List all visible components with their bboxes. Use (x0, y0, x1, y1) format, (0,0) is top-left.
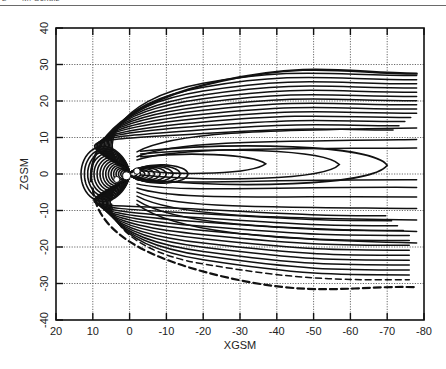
x-tick-label: -50 (306, 325, 322, 337)
x-tick-label: -10 (158, 325, 174, 337)
y-tick-label: 20 (38, 95, 50, 107)
y-tick-label: 10 (38, 131, 50, 143)
x-tick-label: 20 (50, 325, 62, 337)
y-tick-label: -20 (38, 239, 50, 255)
earth-cusp-icon (114, 176, 120, 182)
y-tick-label: -30 (38, 276, 50, 292)
x-tick-label: 0 (127, 325, 133, 337)
y-tick-label: 40 (38, 22, 50, 34)
x-tick-label: 10 (87, 325, 99, 337)
south-lobe-field-line (95, 179, 391, 220)
y-tick-label: -40 (38, 312, 50, 328)
x-tick-label: -60 (342, 325, 358, 337)
north-lobe-field-line (97, 120, 404, 168)
earth-cusp-icon (134, 168, 140, 174)
field-lines (81, 70, 417, 290)
x-tick-label: -30 (232, 325, 248, 337)
y-axis-ticks: 403020100-10-20-30-40 (38, 22, 63, 328)
y-tick-label: 0 (38, 171, 50, 177)
x-tick-label: -80 (416, 325, 432, 337)
x-tick-label: -40 (269, 325, 285, 337)
earth-icon (123, 172, 131, 180)
y-tick-label: -10 (38, 203, 50, 219)
y-tick-label: 30 (38, 58, 50, 70)
x-tick-label: -20 (195, 325, 211, 337)
x-axis-title: XGSM (224, 339, 256, 351)
x-tick-label: -70 (379, 325, 395, 337)
field-line-chart: 20100-10-20-30-40-50-60-70-80 403020100-… (0, 0, 446, 369)
y-axis-title: ZGSM (18, 158, 30, 190)
